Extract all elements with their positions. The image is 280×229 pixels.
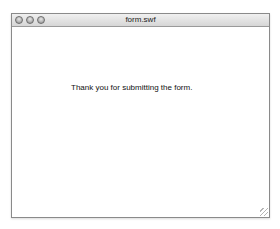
app-window: form.swf Thank you for submitting the fo… [11, 13, 270, 218]
title-bar[interactable]: form.swf [12, 14, 269, 27]
confirmation-message: Thank you for submitting the form. [71, 83, 192, 92]
resize-grip-icon[interactable] [260, 208, 268, 216]
window-title: form.swf [12, 14, 269, 26]
flash-content: Thank you for submitting the form. [12, 27, 269, 217]
